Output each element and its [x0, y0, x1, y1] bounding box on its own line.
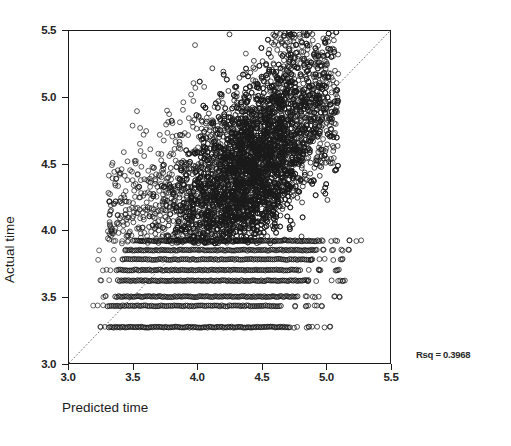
rsq-annotation: Rsq = 0.3968	[416, 349, 470, 360]
y-tick-label: 5.5	[26, 24, 56, 36]
x-tick-mark	[326, 364, 327, 370]
x-tick-label: 5.5	[376, 371, 406, 383]
x-tick-label: 4.5	[247, 371, 277, 383]
x-tick-mark	[197, 364, 198, 370]
y-tick-label: 4.5	[26, 158, 56, 170]
y-tick-label: 3.0	[26, 358, 56, 370]
x-tick-label: 3.0	[53, 371, 83, 383]
x-tick-label: 4.0	[182, 371, 212, 383]
x-tick-mark	[262, 364, 263, 370]
plot-area	[68, 30, 391, 364]
x-tick-mark	[133, 364, 134, 370]
y-tick-label: 4.0	[26, 224, 56, 236]
plot-canvas	[69, 31, 390, 363]
x-tick-mark	[391, 364, 392, 370]
x-axis-title: Predicted time	[62, 400, 148, 415]
y-axis-title: Actual time	[2, 163, 17, 283]
x-tick-label: 5.0	[311, 371, 341, 383]
y-tick-label: 3.5	[26, 291, 56, 303]
y-tick-label: 5.0	[26, 91, 56, 103]
x-tick-label: 3.5	[118, 371, 148, 383]
scatter-plot-figure: 5.5 5.0 4.5 4.0 3.5 3.0 3.0 3.5 4.0 4.5 …	[0, 0, 511, 446]
x-tick-mark	[68, 364, 69, 370]
